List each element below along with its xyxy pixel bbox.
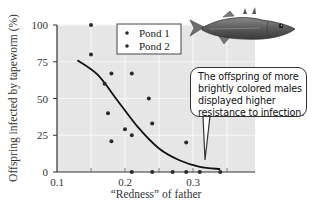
y-tick-label: 0 — [43, 166, 49, 178]
data-point — [171, 170, 175, 174]
y-axis-label: Offspring infected by tapeworm (%) — [7, 14, 20, 182]
y-tick-label: 25 — [37, 129, 49, 141]
annotation-callout: The offspring of more brightly colored m… — [190, 67, 307, 117]
data-point — [103, 82, 107, 86]
annotation-line: displayed higher — [198, 95, 306, 107]
y-tick-label: 75 — [37, 56, 49, 68]
data-point — [150, 121, 154, 125]
data-point — [106, 111, 110, 115]
x-tick-label: 0.1 — [50, 176, 64, 188]
data-point — [130, 72, 134, 76]
y-tick-label: 50 — [37, 93, 49, 105]
data-point — [109, 72, 113, 76]
data-point — [130, 170, 134, 174]
annotation-line: The offspring of more — [198, 71, 306, 83]
annotation-line: resistance to infection. — [198, 107, 306, 119]
x-tick-label: 0.2 — [118, 176, 132, 188]
data-point — [147, 97, 151, 101]
data-point — [198, 170, 202, 174]
annotation-line: brightly colored males — [198, 83, 306, 95]
legend-item-pond-2: Pond 2 — [139, 40, 170, 52]
data-point — [218, 170, 222, 174]
data-point — [89, 52, 93, 56]
data-point — [109, 139, 113, 143]
legend: Pond 1 Pond 2 — [117, 24, 181, 54]
data-point — [123, 127, 127, 131]
y-tick-label: 100 — [32, 19, 49, 31]
data-point — [89, 23, 93, 27]
legend-item-pond-1: Pond 1 — [139, 27, 170, 39]
data-point — [184, 170, 188, 174]
data-point — [184, 141, 188, 145]
x-tick-label: 0.3 — [186, 176, 200, 188]
data-point — [130, 133, 134, 137]
x-axis-label: “Redness” of father — [111, 188, 202, 200]
data-point — [150, 170, 154, 174]
